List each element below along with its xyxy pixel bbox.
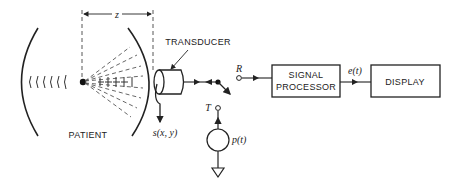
receive-terminal-label: R [235, 63, 242, 74]
point-scatterer-icon [80, 79, 86, 85]
signal-processor-label-line1: SIGNAL [289, 70, 324, 80]
transducer-wire [184, 79, 217, 85]
transmit-terminal-label: T [205, 102, 212, 113]
distance-dimension: z [82, 9, 153, 80]
distance-label: z [114, 9, 119, 20]
transducer-pointer [171, 50, 188, 69]
ground-icon [212, 168, 224, 177]
pulse-source-icon [207, 111, 229, 168]
surface-signal-label: s(x, y) [153, 127, 178, 139]
transducer-icon [154, 70, 184, 122]
echo-wavefronts-icon [30, 75, 67, 89]
ultrasound-diagram: z PATIENT TRANSDUCER s(x, y) R T SIGNAL … [0, 0, 454, 184]
processor-output-label: e(t) [348, 65, 363, 77]
patient-label: PATIENT [69, 130, 108, 140]
pulse-source-label: p(t) [231, 134, 247, 146]
signal-processor-label-line2: PROCESSOR [276, 82, 336, 92]
tr-switch [215, 76, 241, 111]
display-label: DISPLAY [385, 77, 424, 87]
transducer-label: TRANSDUCER [165, 37, 231, 47]
